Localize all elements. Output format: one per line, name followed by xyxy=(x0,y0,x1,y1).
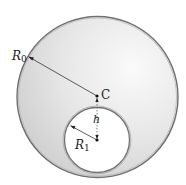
r0-label: R0 xyxy=(11,49,27,64)
h-label: h xyxy=(93,113,100,126)
hollow-disk-diagram: R0 C h R1 xyxy=(0,0,186,185)
inner-center-point xyxy=(95,138,98,141)
center-label: C xyxy=(101,88,110,102)
center-point-c xyxy=(95,94,98,97)
